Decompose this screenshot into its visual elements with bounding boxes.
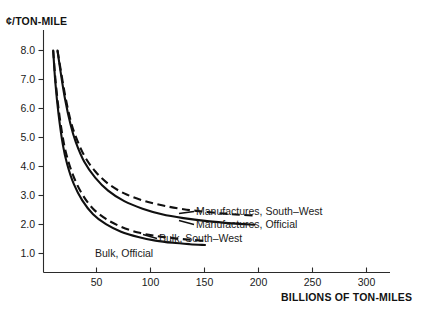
y-tick-label-2: 2.0	[20, 218, 35, 230]
x-tick-label-250: 250	[304, 276, 322, 288]
leader-manufactures-south-west	[179, 212, 194, 214]
series-label-manufactures-official: Manufactures, Official	[196, 218, 297, 230]
x-tick-label-50: 50	[91, 276, 103, 288]
y-tick-label-5: 5.0	[20, 131, 35, 143]
x-tick-label-100: 100	[142, 276, 160, 288]
series-label-bulk-south-west: Bulk, South–West	[159, 232, 242, 244]
chart-svg: ¢/TON-MILE 8.0 7.0 6.0 5.0 4.0 3.0 2.0 1…	[0, 0, 426, 314]
x-tick-label-300: 300	[358, 276, 376, 288]
chart-container: ¢/TON-MILE 8.0 7.0 6.0 5.0 4.0 3.0 2.0 1…	[0, 0, 426, 314]
y-axis-ticks	[39, 51, 44, 254]
y-tick-label-3: 3.0	[20, 189, 35, 201]
y-tick-label-8: 8.0	[20, 44, 35, 56]
x-axis-tick-labels: 50 100 150 200 250 300	[91, 276, 376, 288]
series-labels: Manufactures, South–West Manufactures, O…	[95, 205, 323, 259]
y-tick-label-4: 4.0	[20, 160, 35, 172]
leader-manufactures-official	[179, 221, 194, 225]
y-axis-title: ¢/TON-MILE	[6, 15, 67, 27]
x-tick-label-150: 150	[196, 276, 214, 288]
x-tick-label-200: 200	[250, 276, 268, 288]
series-label-manufactures-south-west: Manufactures, South–West	[196, 205, 323, 217]
curve-manufactures-official	[58, 51, 255, 225]
y-tick-label-7: 7.0	[20, 73, 35, 85]
x-axis-title: BILLIONS OF TON-MILES	[281, 291, 412, 303]
curve-manufactures-south-west	[58, 51, 255, 216]
y-tick-label-1: 1.0	[20, 247, 35, 259]
curve-bulk-official	[53, 51, 205, 246]
x-axis-ticks	[97, 268, 367, 273]
y-axis-tick-labels: 8.0 7.0 6.0 5.0 4.0 3.0 2.0 1.0	[20, 44, 35, 259]
series-label-bulk-official: Bulk, Official	[95, 247, 153, 259]
y-tick-label-6: 6.0	[20, 102, 35, 114]
